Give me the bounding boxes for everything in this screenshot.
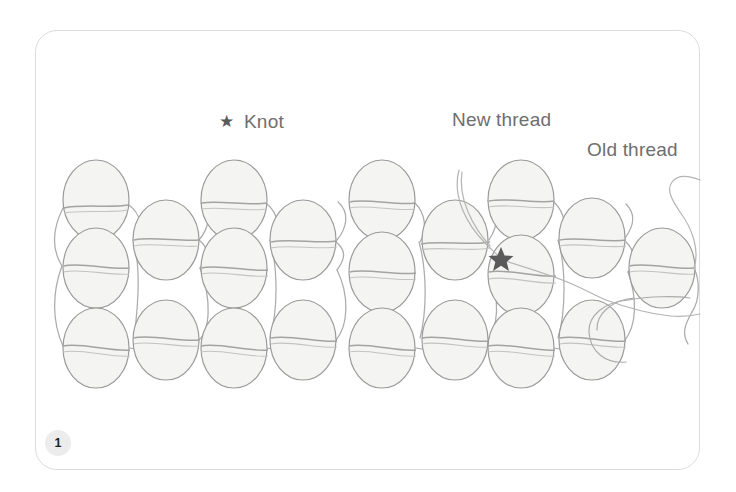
figure-card [35, 30, 700, 470]
figure-number-badge: 1 [45, 430, 71, 456]
new-thread-label: New thread [452, 110, 551, 129]
knot-legend-star-icon: ★ [219, 113, 234, 130]
diagram-stage: ★ Knot New thread Old thread 1 [0, 0, 736, 492]
old-thread-label: Old thread [587, 140, 678, 159]
knot-label: Knot [244, 112, 284, 131]
